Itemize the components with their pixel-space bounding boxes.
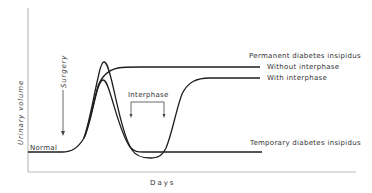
with-interphase-label: With interphase (267, 74, 327, 82)
curve-with-interphase (84, 62, 260, 158)
interphase-arrowhead-left-icon (130, 114, 133, 118)
x-axis-label: Days (150, 179, 175, 187)
interphase-arrowhead-right-icon (163, 114, 166, 118)
temporary-di-label: Temporary diabetes insipidus (249, 139, 361, 147)
interphase-label: Interphase (128, 91, 169, 99)
surgery-label: Surgery (60, 55, 68, 88)
y-axis-label: Urinary volume (17, 80, 25, 145)
without-interphase-label: Without interphase (267, 63, 339, 71)
normal-label: Normal (30, 144, 57, 152)
interphase-bracket (131, 102, 164, 116)
surgery-arrowhead-icon (61, 131, 65, 136)
diabetes-insipidus-diagram: Urinary volume Days Normal Surgery Inter… (0, 0, 372, 193)
permanent-di-label: Permanent diabetes insipidus (249, 52, 361, 60)
